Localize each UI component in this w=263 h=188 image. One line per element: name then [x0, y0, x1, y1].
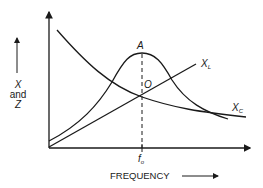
xc-label-sub: C — [239, 108, 243, 114]
fo-label: fo — [138, 154, 144, 165]
point-a-label: A — [137, 41, 144, 51]
xl-curve — [49, 64, 196, 147]
xc-curve — [57, 30, 246, 117]
x-axis-label: FREQUENCY — [110, 171, 170, 181]
xl-label-sub: L — [208, 64, 211, 70]
y-axis-label: X and Z — [8, 80, 28, 110]
xl-label-main: X — [201, 58, 208, 69]
y-axis-label-z: Z — [8, 100, 28, 110]
xc-label-main: X — [232, 102, 239, 113]
xl-label: XL — [201, 59, 211, 70]
point-o-label: O — [144, 80, 152, 90]
diagram-canvas — [0, 0, 263, 188]
xc-label: XC — [232, 103, 243, 114]
fo-label-sub: o — [141, 159, 144, 165]
